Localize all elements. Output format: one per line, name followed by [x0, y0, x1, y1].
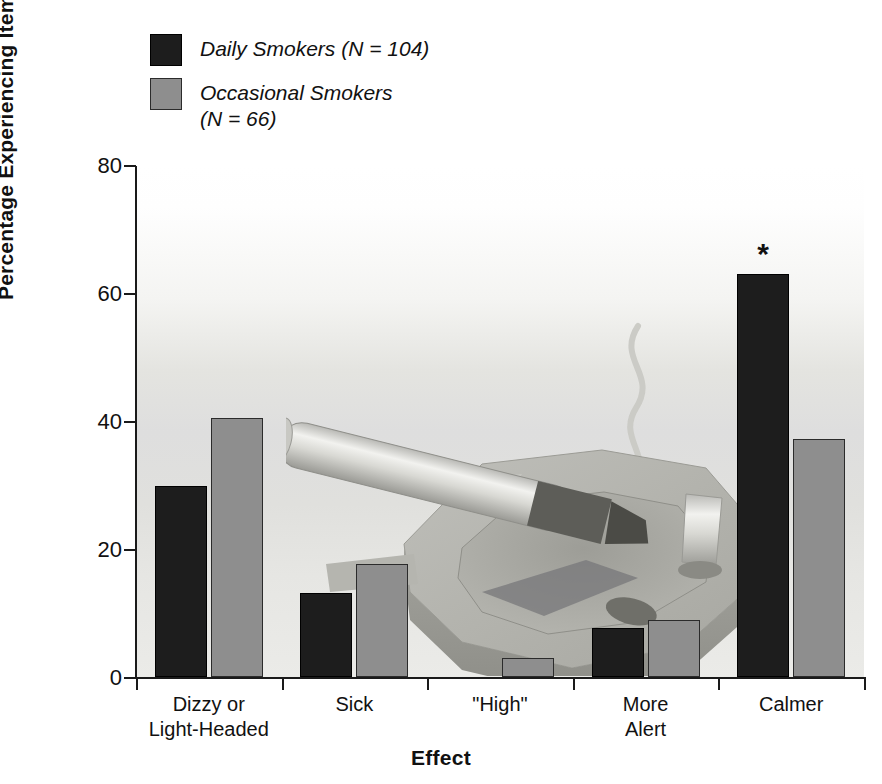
y-axis-tick-label: 60: [56, 281, 122, 307]
bar-occasional-3: [648, 620, 700, 677]
x-axis-tick: [573, 677, 575, 690]
bar-occasional-1: [356, 564, 408, 677]
bar-occasional-4: [793, 439, 845, 677]
bar-daily-0: [155, 486, 207, 677]
chart-figure: Daily Smokers (N = 104) Occasional Smoke…: [0, 0, 882, 784]
y-axis-tick: [124, 165, 136, 167]
x-axis-title: Effect: [0, 746, 882, 770]
x-axis-tick: [136, 677, 138, 690]
x-axis-tick: [864, 677, 866, 690]
x-axis-category-label: Dizzy or Light-Headed: [136, 692, 282, 742]
y-axis-tick-label: 0: [56, 665, 122, 691]
y-axis-tick: [124, 549, 136, 551]
bar-daily-3: [592, 628, 644, 677]
x-axis-category-label: Calmer: [718, 692, 864, 717]
x-axis-category-label: "High": [427, 692, 573, 717]
y-axis-tick-label: 40: [56, 409, 122, 435]
legend-swatch-occasional-smokers: [150, 78, 182, 110]
y-axis-tick-label: 80: [56, 153, 122, 179]
x-axis-tick: [282, 677, 284, 690]
y-axis-tick: [124, 677, 136, 679]
x-axis-tick: [718, 677, 720, 690]
x-axis-tick: [427, 677, 429, 690]
y-axis-tick: [124, 421, 136, 423]
bar-daily-1: [300, 593, 352, 677]
legend-label-daily-smokers: Daily Smokers (N = 104): [200, 34, 429, 62]
chart-legend: Daily Smokers (N = 104) Occasional Smoke…: [150, 34, 429, 144]
x-axis-category-label: More Alert: [573, 692, 719, 742]
x-axis-category-label: Sick: [282, 692, 428, 717]
legend-swatch-daily-smokers: [150, 34, 182, 66]
bar-occasional-0: [211, 418, 263, 677]
plot-area: *: [136, 166, 864, 678]
bar-daily-4: [737, 274, 789, 677]
y-axis-tick-labels: 020406080: [56, 166, 122, 678]
y-axis-tick-label: 20: [56, 537, 122, 563]
x-axis-line: [135, 677, 865, 679]
y-axis-title: Percentage Experiencing Item: [0, 0, 18, 300]
legend-item-daily-smokers: Daily Smokers (N = 104): [150, 34, 429, 66]
y-axis-tick: [124, 293, 136, 295]
legend-label-occasional-smokers: Occasional Smokers (N = 66): [200, 78, 393, 132]
bar-occasional-2: [502, 658, 554, 677]
legend-item-occasional-smokers: Occasional Smokers (N = 66): [150, 78, 429, 132]
significance-asterisk: *: [757, 239, 769, 269]
